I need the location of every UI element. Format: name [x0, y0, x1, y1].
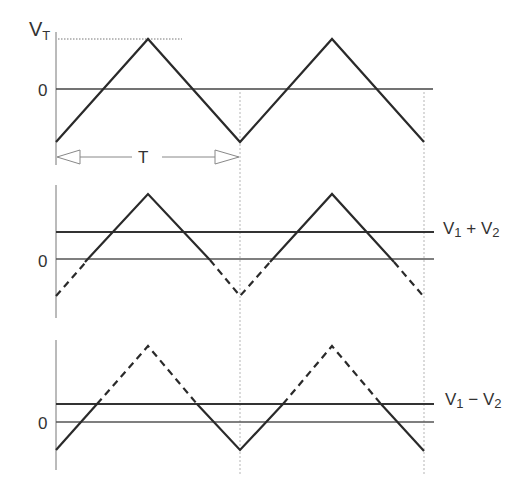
period-label: T [138, 148, 148, 167]
wave-solid-segment [56, 404, 97, 450]
wave-dashed-segment [394, 262, 424, 297]
vt-label: VT [29, 18, 50, 43]
left-arrowhead-icon [57, 150, 80, 164]
zero-label: 0 [38, 252, 47, 271]
zero-label: 0 [38, 81, 47, 100]
v1-plus-v2-label: V1 + V2 [443, 219, 500, 240]
wave-solid-segment [197, 404, 283, 450]
wave-solid-segment [85, 194, 210, 262]
wave-dashed-segment [283, 346, 381, 404]
v1-minus-v2-label: V1 − V2 [445, 390, 502, 411]
triangle-wave [56, 39, 424, 142]
wave-solid-segment [381, 404, 424, 451]
waveform-diagram: VT 0 T 0 V1 + V2 [0, 0, 529, 484]
zero-label: 0 [38, 414, 47, 433]
wave-dashed-segment [56, 263, 85, 296]
period-arrow: T [57, 148, 239, 167]
panel-diff-threshold: 0 V1 − V2 [38, 340, 502, 470]
panel-triangle-wave: VT 0 T [29, 18, 433, 167]
right-arrowhead-icon [215, 150, 239, 164]
wave-dashed-segment [97, 346, 197, 404]
panel-sum-threshold: 0 V1 + V2 [38, 185, 500, 318]
wave-solid-segment [270, 194, 394, 262]
